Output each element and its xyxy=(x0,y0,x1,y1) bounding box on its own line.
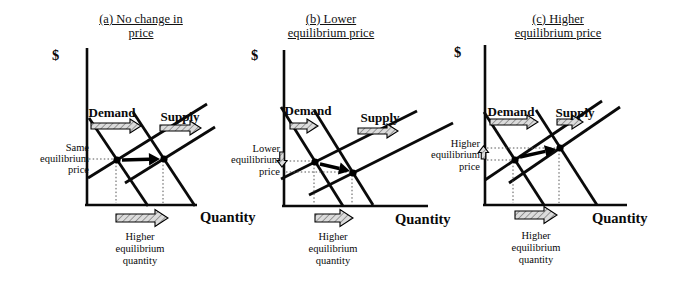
quantity-axis-label: Quantity xyxy=(200,209,256,225)
supply-shift-arrow-icon xyxy=(358,124,398,138)
equilibrium-point-original xyxy=(113,156,120,163)
supply-curve-shifted xyxy=(125,127,215,183)
quantity-axis-label: Quantity xyxy=(395,211,451,227)
figure: $QuantityDemandSupplySameequilibriumpric… xyxy=(0,0,675,288)
quantity-increase-arrow-icon xyxy=(116,210,168,227)
panel-c: $QuantityDemandSupplyHigherequilibriumpr… xyxy=(431,44,648,265)
quantity-note-line: Higher xyxy=(125,231,155,242)
quantity-increase-arrow-icon xyxy=(315,210,353,227)
equilibrium-point-new xyxy=(160,155,167,162)
dollar-axis-label: $ xyxy=(52,47,59,63)
panel-title-line: (c) Higher xyxy=(515,12,601,26)
demand-label: Demand xyxy=(285,103,333,118)
panel-a: $QuantityDemandSupplySameequilibriumpric… xyxy=(40,47,256,266)
shift-arrow-shaft xyxy=(320,164,339,169)
shift-arrow-shaft xyxy=(122,159,149,160)
equilibrium-point-new xyxy=(349,169,356,176)
price-note-line: price xyxy=(259,166,280,177)
dollar-axis-label: $ xyxy=(251,47,258,63)
equilibrium-point-original xyxy=(511,156,518,163)
supply-label: Supply xyxy=(160,109,200,124)
demand-label: Demand xyxy=(89,105,137,120)
panel-b: $QuantityDemandSupplyLowerequilibriumpri… xyxy=(231,47,453,266)
panel-title-line: equilibrium price xyxy=(515,26,601,40)
supply-label: Supply xyxy=(360,110,400,125)
panel-title-b: (b) Lower equilibrium price xyxy=(288,12,374,40)
equilibrium-shift-arrow xyxy=(320,162,350,174)
demand-label: Demand xyxy=(488,104,536,119)
dollar-axis-label: $ xyxy=(454,44,461,60)
quantity-increase-arrow-icon xyxy=(515,207,557,224)
supply-label: Supply xyxy=(555,105,595,120)
quantity-note-line: equilibrium xyxy=(309,243,358,254)
quantity-note-line: quantity xyxy=(519,254,554,265)
price-note-line: equilibrium xyxy=(431,149,480,160)
equilibrium-point-original xyxy=(311,158,318,165)
panel-title-line: (a) No change in xyxy=(99,12,183,26)
quantity-note-line: Higher xyxy=(318,231,348,242)
panel-title-line: price xyxy=(99,26,183,40)
panel-title-a: (a) No change in price xyxy=(99,12,183,40)
price-note-line: equilibrium xyxy=(231,154,280,165)
diagram-svg: $QuantityDemandSupplySameequilibriumpric… xyxy=(0,0,675,288)
price-note-line: equilibrium xyxy=(40,153,89,164)
price-note-line: price xyxy=(68,164,89,175)
quantity-note-line: equilibrium xyxy=(116,243,165,254)
quantity-note-line: quantity xyxy=(123,255,158,266)
price-note-line: Higher xyxy=(451,138,481,149)
panel-title-line: (b) Lower xyxy=(288,12,374,26)
price-note-line: price xyxy=(459,161,480,172)
quantity-note-line: Higher xyxy=(521,230,551,241)
quantity-axis-label: Quantity xyxy=(592,210,648,226)
panel-title-c: (c) Higher equilibrium price xyxy=(515,12,601,40)
panel-title-line: equilibrium price xyxy=(288,26,374,40)
quantity-note-line: quantity xyxy=(316,255,351,266)
quantity-note-line: equilibrium xyxy=(512,242,561,253)
demand-shift-arrow-icon xyxy=(290,119,318,133)
price-note-line: Same xyxy=(66,142,90,153)
equilibrium-point-new xyxy=(556,144,563,151)
price-note-line: Lower xyxy=(253,143,281,154)
